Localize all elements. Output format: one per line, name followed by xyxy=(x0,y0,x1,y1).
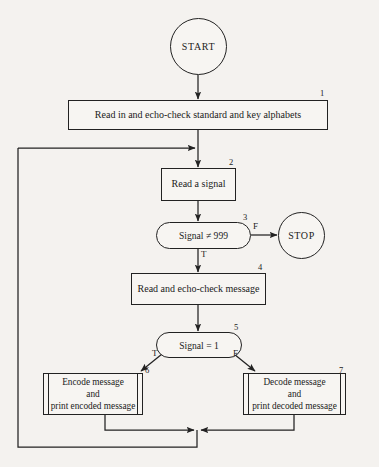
branch-label-dec5-false: F xyxy=(233,348,238,358)
node-stop-label: STOP xyxy=(288,230,315,241)
node-decision5-number: 5 xyxy=(234,322,238,332)
node-box1-number: 1 xyxy=(320,88,324,98)
node-box6-label: Encode message and print encoded message xyxy=(51,376,136,413)
node-box6-number: 6 xyxy=(145,365,149,375)
branch-label-dec3-true: T xyxy=(201,249,207,259)
edge-box6-to-merge xyxy=(105,415,194,430)
node-box2-label: Read a signal xyxy=(172,178,226,191)
node-box7[interactable]: Decode message and print decoded message xyxy=(243,373,346,415)
node-decision5[interactable]: Signal = 1 xyxy=(156,332,242,358)
node-box6[interactable]: Encode message and print encoded message xyxy=(43,373,143,415)
node-start-label: START xyxy=(182,41,215,52)
node-decision3[interactable]: Signal ≠ 999 xyxy=(156,222,251,249)
node-box2[interactable]: Read a signal xyxy=(161,168,236,201)
branch-label-dec5-true: T xyxy=(152,348,158,358)
node-box4-label: Read and echo-check message xyxy=(138,283,260,296)
node-box7-label: Decode message and print decoded message xyxy=(252,376,337,413)
node-start[interactable]: START xyxy=(170,18,227,75)
node-box1-label: Read in and echo-check standard and key … xyxy=(95,109,301,122)
node-box4-number: 4 xyxy=(258,262,262,272)
node-box2-number: 2 xyxy=(229,157,233,167)
node-box1[interactable]: Read in and echo-check standard and key … xyxy=(68,100,328,130)
node-decision3-label: Signal ≠ 999 xyxy=(179,230,228,241)
node-box7-number: 7 xyxy=(339,365,343,375)
node-decision3-number: 3 xyxy=(243,212,247,222)
node-decision5-label: Signal = 1 xyxy=(179,340,219,351)
node-stop[interactable]: STOP xyxy=(278,212,325,259)
node-box4[interactable]: Read and echo-check message xyxy=(131,273,266,305)
edge-box7-to-merge xyxy=(201,415,294,430)
branch-label-dec3-false: F xyxy=(253,221,258,231)
